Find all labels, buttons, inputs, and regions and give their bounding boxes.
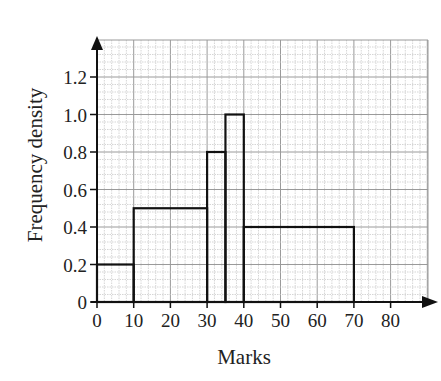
x-axis-title: Marks xyxy=(217,345,271,369)
y-axis-title: Frequency density xyxy=(23,87,47,242)
x-tick-label: 50 xyxy=(271,310,290,331)
y-tick-label: 0 xyxy=(78,292,88,313)
y-tick-label: 0.8 xyxy=(63,142,87,163)
x-tick-label: 0 xyxy=(92,310,102,331)
x-tick-label: 10 xyxy=(124,310,143,331)
y-tick-label: 0.4 xyxy=(63,217,87,238)
histogram-bars xyxy=(97,115,354,303)
y-tick-label: 1.0 xyxy=(63,105,87,126)
histogram-chart: 01020304050607080 00.20.40.60.81.01.2 Ma… xyxy=(0,0,441,381)
x-tick-label: 20 xyxy=(161,310,180,331)
x-tick-label: 40 xyxy=(234,310,253,331)
histogram-bar xyxy=(97,265,134,303)
histogram-bar xyxy=(225,115,243,303)
x-tick-label: 70 xyxy=(344,310,363,331)
y-axis-arrow-icon xyxy=(91,36,103,50)
y-tick-label: 1.2 xyxy=(63,67,87,88)
graph-paper-grid xyxy=(97,40,428,302)
y-axis-ticks: 00.20.40.60.81.01.2 xyxy=(63,67,97,313)
y-tick-label: 0.2 xyxy=(63,255,87,276)
y-tick-label: 0.6 xyxy=(63,180,87,201)
x-tick-label: 30 xyxy=(198,310,217,331)
x-tick-label: 80 xyxy=(381,310,400,331)
x-tick-label: 60 xyxy=(308,310,327,331)
x-axis-arrow-icon xyxy=(422,296,438,308)
x-axis-ticks: 01020304050607080 xyxy=(92,302,400,331)
